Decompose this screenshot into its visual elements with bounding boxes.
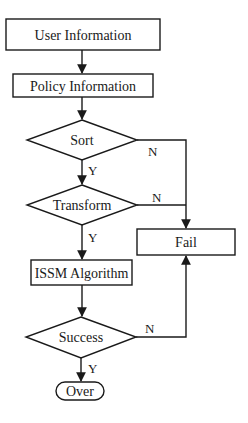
node-sort-decision: Sort [27,120,137,160]
edge-sort-to-fail [137,140,186,228]
edge-label-success-no: N [145,321,155,336]
node-label: Policy Information [30,79,136,94]
edge-label-success-yes: Y [88,361,98,376]
node-label: ISSM Algorithm [35,266,129,281]
node-policy-information: Policy Information [13,74,153,97]
edge-label-sort-yes: Y [88,163,98,178]
node-success-decision: Success [26,317,136,358]
node-user-information: User Information [6,19,160,50]
node-label: Transform [53,198,112,213]
edge-label-sort-no: N [148,144,158,159]
edge-label-transform-yes: Y [88,230,98,245]
node-label: Fail [175,235,197,250]
node-fail: Fail [137,229,235,255]
node-transform-decision: Transform [27,185,137,225]
edge-success-to-fail [136,256,186,337]
node-label: Sort [70,133,93,148]
flowchart: User Information Policy Information Sort… [0,0,248,423]
node-label: User Information [35,28,132,43]
node-label: Over [66,384,94,399]
node-label: Success [59,330,103,345]
node-issm-algorithm: ISSM Algorithm [31,260,132,285]
edge-label-transform-no: N [152,190,162,205]
node-over-terminator: Over [56,382,104,400]
